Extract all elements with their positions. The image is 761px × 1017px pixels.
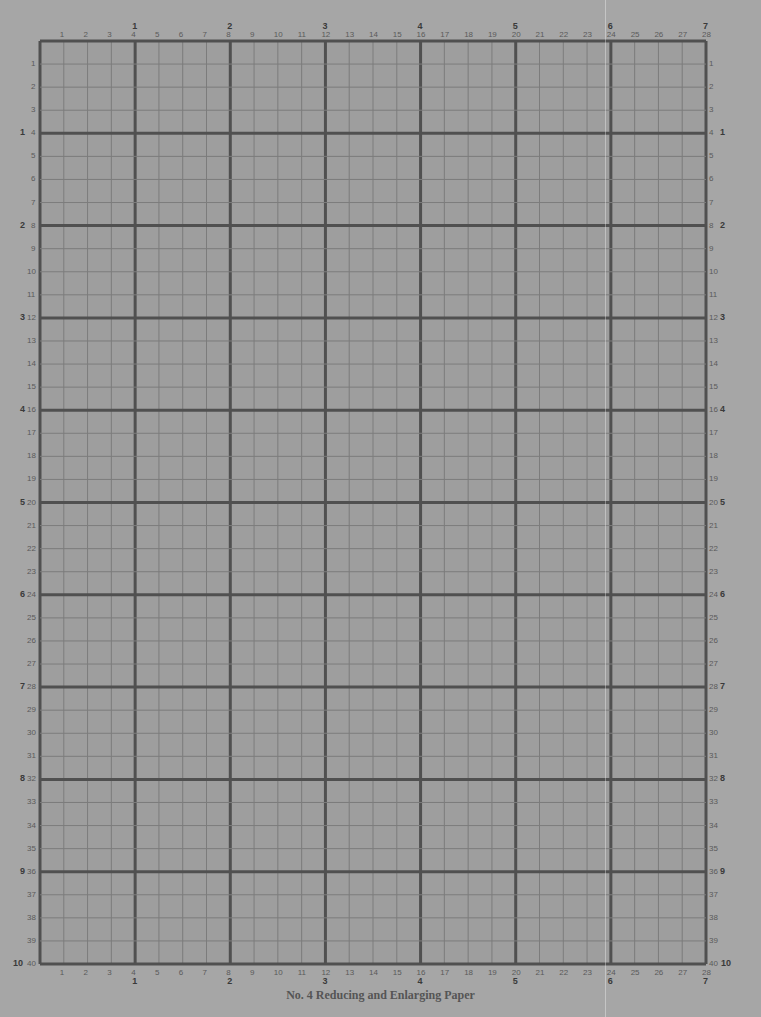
row-major-label-right: 10 (721, 959, 731, 967)
row-label-right: 10 (709, 268, 718, 276)
row-label-right: 32 (709, 775, 718, 783)
row-label-left: 33 (27, 798, 36, 806)
row-label-left: 27 (27, 660, 36, 668)
column-label-top: 12 (321, 31, 330, 39)
row-label-right: 29 (709, 706, 718, 714)
row-label-left: 40 (27, 960, 36, 968)
column-label-bottom: 21 (536, 969, 545, 977)
row-label-left: 38 (27, 914, 36, 922)
column-label-top: 19 (488, 31, 497, 39)
row-label-right: 1 (709, 60, 713, 68)
column-label-top: 7 (203, 31, 207, 39)
row-label-right: 37 (709, 891, 718, 899)
column-major-label-top: 4 (418, 22, 423, 30)
row-major-label-right: 3 (720, 313, 725, 321)
column-label-top: 9 (250, 31, 254, 39)
row-label-right: 23 (709, 568, 718, 576)
row-label-left: 13 (27, 337, 36, 345)
row-label-left: 28 (27, 683, 36, 691)
row-label-left: 32 (27, 775, 36, 783)
column-label-bottom: 14 (369, 969, 378, 977)
column-label-bottom: 18 (464, 969, 473, 977)
column-label-bottom: 26 (654, 969, 663, 977)
row-label-right: 19 (709, 475, 718, 483)
column-label-top: 2 (84, 31, 88, 39)
column-label-top: 17 (440, 31, 449, 39)
column-label-bottom: 3 (107, 969, 111, 977)
row-label-left: 29 (27, 706, 36, 714)
column-label-top: 23 (583, 31, 592, 39)
column-label-bottom: 10 (274, 969, 283, 977)
row-label-right: 11 (709, 291, 717, 299)
column-major-label-bottom: 3 (322, 977, 327, 985)
column-label-bottom: 22 (559, 969, 568, 977)
row-label-left: 31 (27, 752, 36, 760)
column-label-bottom: 15 (393, 969, 402, 977)
column-label-top: 24 (607, 31, 616, 39)
row-major-label-left: 5 (20, 498, 25, 506)
row-major-label-left: 3 (20, 313, 25, 321)
grid-paper: 1122334455667788991010111112121313141415… (0, 0, 761, 1017)
row-label-right: 30 (709, 729, 718, 737)
row-label-left: 37 (27, 891, 36, 899)
row-major-label-right: 9 (720, 867, 725, 875)
column-label-bottom: 2 (84, 969, 88, 977)
column-label-top: 15 (393, 31, 402, 39)
row-label-right: 3 (709, 106, 713, 114)
row-major-label-left: 1 (20, 128, 25, 136)
row-label-right: 2 (709, 83, 713, 91)
row-label-right: 6 (709, 175, 713, 183)
column-label-top: 4 (131, 31, 135, 39)
column-label-bottom: 9 (250, 969, 254, 977)
row-major-label-left: 2 (20, 221, 25, 229)
row-major-label-right: 6 (720, 590, 725, 598)
column-label-top: 8 (226, 31, 230, 39)
column-label-bottom: 17 (440, 969, 449, 977)
column-major-label-bottom: 4 (418, 977, 423, 985)
row-major-label-right: 4 (720, 405, 725, 413)
row-label-left: 30 (27, 729, 36, 737)
row-label-right: 5 (709, 152, 713, 160)
column-major-label-bottom: 6 (608, 977, 613, 985)
row-major-label-right: 5 (720, 498, 725, 506)
column-label-bottom: 5 (155, 969, 159, 977)
row-label-left: 8 (31, 222, 35, 230)
row-label-right: 13 (709, 337, 718, 345)
row-label-left: 22 (27, 545, 36, 553)
column-label-bottom: 27 (678, 969, 687, 977)
row-major-label-right: 1 (720, 128, 725, 136)
row-label-right: 12 (709, 314, 718, 322)
column-major-label-top: 7 (703, 22, 708, 30)
row-label-right: 28 (709, 683, 718, 691)
row-label-left: 3 (31, 106, 35, 114)
row-label-left: 6 (31, 175, 35, 183)
column-label-top: 27 (678, 31, 687, 39)
row-major-label-right: 7 (720, 682, 725, 690)
column-label-top: 3 (107, 31, 111, 39)
row-major-label-left: 6 (20, 590, 25, 598)
column-label-top: 25 (631, 31, 640, 39)
row-label-right: 39 (709, 937, 718, 945)
row-label-right: 26 (709, 637, 718, 645)
row-label-left: 9 (31, 245, 35, 253)
column-label-top: 16 (417, 31, 426, 39)
column-label-bottom: 11 (298, 969, 306, 977)
row-major-label-left: 8 (20, 774, 25, 782)
row-label-right: 9 (709, 245, 713, 253)
column-label-top: 10 (274, 31, 283, 39)
column-major-label-top: 3 (322, 22, 327, 30)
row-label-left: 1 (31, 60, 35, 68)
column-major-label-top: 6 (608, 22, 613, 30)
row-label-left: 12 (27, 314, 36, 322)
column-label-top: 18 (464, 31, 473, 39)
column-label-bottom: 23 (583, 969, 592, 977)
row-label-right: 33 (709, 798, 718, 806)
column-label-top: 1 (60, 31, 64, 39)
column-label-bottom: 25 (631, 969, 640, 977)
column-major-label-bottom: 5 (513, 977, 518, 985)
row-label-right: 25 (709, 614, 718, 622)
row-label-left: 24 (27, 591, 36, 599)
column-label-bottom: 19 (488, 969, 497, 977)
row-label-right: 38 (709, 914, 718, 922)
column-label-top: 11 (298, 31, 306, 39)
